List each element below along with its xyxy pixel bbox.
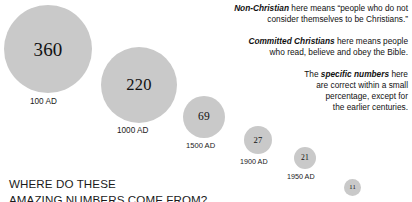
note-specific-numbers-line-4: the earlier centuries. [210, 102, 408, 113]
bubble-value-1500-ad: 69 [198, 111, 210, 123]
headline-line-2: AMAZING NUMBERS COME FROM? [9, 192, 207, 202]
note-committed-christians-lead: Committed Christians [248, 36, 334, 46]
bubble-chart-infographic: 360 100 AD 220 1000 AD 69 1500 AD 27 190… [0, 0, 412, 202]
bubble-label-1000-ad: 1000 AD [117, 127, 148, 135]
bubble-label-100-ad: 100 AD [30, 98, 57, 106]
headline-line-1: WHERE DO THESE [9, 176, 207, 192]
note-committed-christians: Committed Christians here means people w… [150, 36, 408, 58]
bubble-1950-ad: 21 [294, 147, 316, 169]
bubble-value-1000-ad: 220 [126, 77, 151, 94]
headline: WHERE DO THESE AMAZING NUMBERS COME FROM… [9, 176, 207, 202]
bubble-value-100-ad: 360 [33, 40, 62, 59]
note-committed-christians-line-2: who read, believe and obey the Bible. [150, 47, 408, 58]
note-committed-christians-line-1-rest: here means people [335, 36, 408, 46]
bubble-1900-ad: 27 [244, 126, 272, 154]
note-non-christian-line-1-rest: here means “people who do not [289, 3, 408, 13]
bubble-value-1950-ad: 21 [301, 154, 309, 162]
bubble-latest: 11 [344, 179, 361, 196]
bubble-label-1950-ad: 1950 AD [287, 173, 315, 180]
note-committed-christians-line-1: Committed Christians here means people [150, 36, 408, 47]
note-non-christian-line-2: consider themselves to be Christians.” [150, 14, 408, 25]
note-specific-numbers-lead: specific numbers [321, 69, 389, 79]
bubble-100-ad: 360 [4, 5, 92, 93]
note-specific-numbers-line-3: percentage, except for [210, 91, 408, 102]
note-specific-numbers-line-1-rest: here [389, 69, 408, 79]
bubble-value-1900-ad: 27 [254, 136, 263, 145]
note-specific-numbers-pre: The [304, 69, 321, 79]
bubble-label-1500-ad: 1500 AD [186, 142, 215, 150]
note-specific-numbers: The specific numbers here are correct wi… [210, 69, 408, 113]
bubble-label-1900-ad: 1900 AD [240, 158, 268, 165]
note-specific-numbers-line-1: The specific numbers here [210, 69, 408, 80]
note-non-christian-line-1: Non-Christian here means “people who do … [150, 3, 408, 14]
note-non-christian: Non-Christian here means “people who do … [150, 3, 408, 25]
bubble-value-latest: 11 [349, 184, 356, 191]
bubble-1000-ad: 220 [101, 47, 177, 123]
note-specific-numbers-line-2: are correct within a small [210, 80, 408, 91]
note-non-christian-lead: Non-Christian [234, 3, 289, 13]
